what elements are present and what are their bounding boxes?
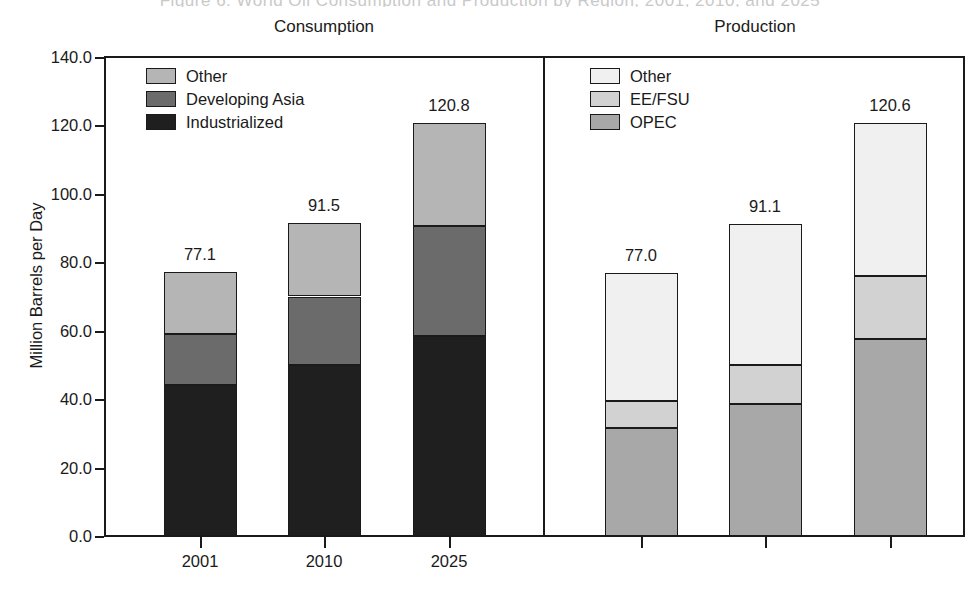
bar-segment: [605, 428, 678, 536]
legend-item[interactable]: Developing Asia: [146, 87, 304, 110]
stacked-bar: [605, 273, 678, 536]
y-tick-mark: [95, 57, 104, 59]
stacked-bar: [164, 272, 237, 536]
legend-swatch-ee-fsu-icon: [590, 91, 620, 107]
bar-segment: [605, 273, 678, 401]
x-tick-mark: [449, 537, 451, 548]
legend-item[interactable]: Industrialized: [146, 110, 304, 133]
y-tick-mark: [95, 536, 104, 538]
bar-total-label: 91.1: [705, 197, 825, 216]
legend-label: EE/FSU: [630, 90, 690, 108]
x-tick-label: 2001: [140, 552, 260, 571]
legend-swatch-developing-asia-icon: [146, 91, 176, 107]
bar-segment: [164, 334, 237, 385]
bar-segment: [413, 226, 486, 335]
bar-segment: [854, 123, 927, 276]
y-tick-mark: [95, 331, 104, 333]
x-tick-label: 2025: [389, 552, 509, 571]
x-tick-label: 2010: [264, 552, 384, 571]
legend-label: OPEC: [630, 113, 677, 131]
bar-segment: [854, 276, 927, 339]
y-tick-label: 120.0: [6, 117, 92, 133]
y-tick-mark: [95, 194, 104, 196]
bar-segment: [288, 297, 361, 365]
y-tick-label: 40.0: [6, 391, 92, 407]
bar-segment: [164, 272, 237, 334]
legend-item[interactable]: EE/FSU: [590, 87, 690, 110]
bar-segment: [605, 401, 678, 428]
y-tick-label: 100.0: [6, 186, 92, 202]
bar-total-label: 91.5: [264, 196, 384, 215]
chart-figure: Figure 6. World Oil Consumption and Prod…: [0, 0, 980, 590]
bar-total-label: 77.0: [581, 246, 701, 265]
panel-divider: [543, 56, 545, 537]
x-tick-mark: [765, 537, 767, 548]
x-tick-mark: [324, 537, 326, 548]
bar-segment: [854, 339, 927, 536]
bar-segment: [729, 404, 802, 536]
bar-total-label: 77.1: [140, 245, 260, 264]
stacked-bar: [854, 123, 927, 536]
figure-supertitle: Figure 6. World Oil Consumption and Prod…: [0, 0, 980, 7]
legend-swatch-other-icon: [146, 68, 176, 84]
stacked-bar: [729, 224, 802, 536]
legend-item[interactable]: Other: [590, 64, 690, 87]
panel-title-consumption: Consumption: [104, 17, 544, 37]
legend-consumption: Other Developing Asia Industrialized: [146, 64, 304, 133]
y-tick-mark: [95, 125, 104, 127]
legend-production: Other EE/FSU OPEC: [590, 64, 690, 133]
x-tick-mark: [890, 537, 892, 548]
y-tick-mark: [95, 468, 104, 470]
y-tick-label: 20.0: [6, 460, 92, 476]
y-axis-ticks: 0.0 20.0 40.0 60.0 80.0 100.0 120.0 140.…: [0, 0, 92, 590]
y-tick-label: 60.0: [6, 323, 92, 339]
panel-title-production: Production: [545, 17, 965, 37]
bar-total-label: 120.8: [389, 96, 509, 115]
legend-label: Developing Asia: [186, 90, 304, 108]
bar-segment: [413, 123, 486, 227]
legend-label: Other: [186, 67, 227, 85]
stacked-bar: [413, 123, 486, 536]
bar-segment: [729, 365, 802, 404]
legend-item[interactable]: Other: [146, 64, 304, 87]
legend-swatch-industrialized-icon: [146, 114, 176, 130]
y-tick-mark: [95, 262, 104, 264]
legend-label: Other: [630, 67, 671, 85]
stacked-bar: [288, 223, 361, 536]
y-tick-mark: [95, 399, 104, 401]
bar-segment: [288, 365, 361, 536]
x-tick-mark: [641, 537, 643, 548]
x-tick-mark: [200, 537, 202, 548]
legend-item[interactable]: OPEC: [590, 110, 690, 133]
legend-swatch-other-icon: [590, 68, 620, 84]
y-tick-label: 80.0: [6, 254, 92, 270]
bar-segment: [729, 224, 802, 365]
legend-swatch-opec-icon: [590, 114, 620, 130]
bar-total-label: 120.6: [830, 96, 950, 115]
y-tick-label: 0.0: [6, 528, 92, 544]
bar-segment: [288, 223, 361, 297]
y-tick-label: 140.0: [6, 49, 92, 65]
bar-segment: [164, 385, 237, 536]
bar-segment: [413, 336, 486, 536]
legend-label: Industrialized: [186, 113, 283, 131]
